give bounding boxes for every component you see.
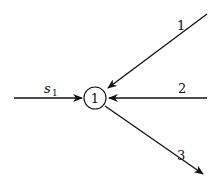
edge-3: 3 — [105, 106, 203, 174]
node-1: 1 — [84, 87, 106, 109]
edge-s1: s 1 — [14, 81, 82, 98]
edge-1-label: 1 — [177, 18, 185, 33]
edge-2: 2 — [109, 81, 207, 98]
edge-1: 1 — [108, 14, 207, 88]
edge-3-label: 3 — [177, 148, 185, 163]
edge-s1-subscript: 1 — [52, 88, 58, 98]
flow-diagram: s 1 1 2 3 1 — [0, 0, 217, 192]
edge-s1-label: s — [44, 81, 51, 96]
edge-2-label: 2 — [178, 81, 186, 96]
node-1-label: 1 — [91, 91, 99, 106]
